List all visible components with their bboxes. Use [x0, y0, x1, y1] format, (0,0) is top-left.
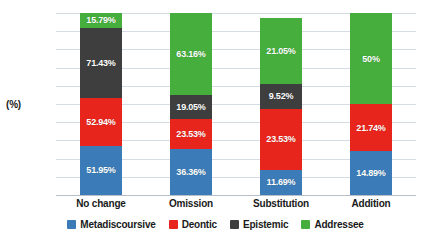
- bar-segment[interactable]: 19.05%: [170, 95, 212, 119]
- bar-segment[interactable]: 63.16%: [170, 13, 212, 95]
- legend-swatch-icon: [169, 220, 178, 229]
- bar-segment-value-label: 23.53%: [266, 134, 295, 144]
- x-axis-tick-label: Substitution: [236, 198, 326, 209]
- bar-segment[interactable]: 14.89%: [350, 151, 392, 195]
- bar-segment[interactable]: 21.74%: [350, 104, 392, 151]
- bar-segment[interactable]: 51.95%: [80, 146, 122, 195]
- bar-segment[interactable]: 50%: [350, 13, 392, 104]
- legend-swatch-icon: [301, 220, 310, 229]
- bar-segment-value-label: 50%: [362, 54, 379, 64]
- gridline: [56, 195, 416, 196]
- bar-segment[interactable]: 21.05%: [260, 18, 302, 84]
- legend-item-label: Epistemic: [243, 219, 288, 230]
- legend-item[interactable]: Addressee: [301, 219, 363, 230]
- legend-swatch-icon: [230, 220, 239, 229]
- bar-segment-value-label: 21.05%: [266, 46, 295, 56]
- bar-slot: 51.95%52.94%71.43%15.79%: [56, 13, 146, 195]
- legend-item-label: Metadiscoursive: [80, 219, 155, 230]
- y-axis-unit-label: (%): [6, 99, 21, 110]
- legend-item[interactable]: Epistemic: [230, 219, 288, 230]
- bar-segment[interactable]: 23.53%: [260, 109, 302, 170]
- bar-segment[interactable]: 36.36%: [170, 149, 212, 195]
- stacked-bar[interactable]: 11.69%23.53%9.52%21.05%: [260, 18, 302, 195]
- bar-segment-value-label: 36.36%: [176, 167, 205, 177]
- legend-item-label: Addressee: [314, 219, 363, 230]
- bar-segment-value-label: 11.69%: [267, 177, 296, 187]
- bar-slot: 36.36%23.53%19.05%63.16%: [146, 13, 236, 195]
- bar-segment-value-label: 15.79%: [86, 15, 115, 25]
- bar-segment-value-label: 71.43%: [86, 58, 115, 68]
- bar-slot: 11.69%23.53%9.52%21.05%: [236, 13, 326, 195]
- stacked-bar[interactable]: 36.36%23.53%19.05%63.16%: [170, 13, 212, 195]
- bar-segment-value-label: 63.16%: [176, 49, 205, 59]
- bar-segment[interactable]: 11.69%: [260, 170, 302, 195]
- bar-segment[interactable]: 9.52%: [260, 84, 302, 109]
- bar-segment-value-label: 23.53%: [176, 129, 205, 139]
- stacked-bar-chart: (%) 0102030405060708090100 51.95%52.94%7…: [0, 0, 431, 243]
- x-axis-tick-label: Addition: [326, 198, 416, 209]
- bar-segment-value-label: 14.89%: [356, 168, 385, 178]
- x-axis-tick-label: Omission: [146, 198, 236, 209]
- bar-segment-value-label: 51.95%: [86, 165, 115, 175]
- bar-segment-value-label: 21.74%: [356, 123, 385, 133]
- legend-item[interactable]: Metadiscoursive: [67, 219, 155, 230]
- legend-item[interactable]: Deontic: [169, 219, 217, 230]
- bar-segment-value-label: 9.52%: [269, 91, 294, 101]
- chart-legend: MetadiscoursiveDeonticEpistemicAddressee: [0, 219, 431, 230]
- bar-segment-value-label: 19.05%: [176, 102, 205, 112]
- bar-segment[interactable]: 52.94%: [80, 98, 122, 146]
- bar-slot: 14.89%21.74%50%: [326, 13, 416, 195]
- stacked-bar[interactable]: 51.95%52.94%71.43%15.79%: [80, 13, 122, 195]
- legend-item-label: Deontic: [182, 219, 217, 230]
- bar-segment[interactable]: 23.53%: [170, 119, 212, 149]
- stacked-bar[interactable]: 14.89%21.74%50%: [350, 13, 392, 195]
- x-axis-labels: No changeOmissionSubstitutionAddition: [56, 198, 416, 209]
- bar-segment[interactable]: 15.79%: [80, 13, 122, 28]
- bar-segment[interactable]: 71.43%: [80, 28, 122, 98]
- bar-segment-value-label: 52.94%: [86, 117, 115, 127]
- plot-area: 0102030405060708090100 51.95%52.94%71.43…: [56, 13, 416, 195]
- legend-swatch-icon: [67, 220, 76, 229]
- bar-group: 51.95%52.94%71.43%15.79%36.36%23.53%19.0…: [56, 13, 416, 195]
- x-axis-tick-label: No change: [56, 198, 146, 209]
